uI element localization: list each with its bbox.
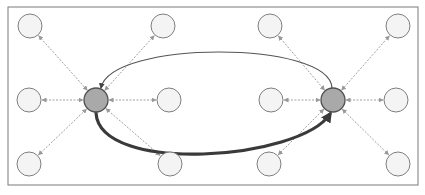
- leaf-node: [158, 152, 182, 176]
- spoke-edge: [342, 109, 388, 155]
- spoke-edge: [38, 109, 86, 155]
- thick-curve-left-to-right: [96, 113, 330, 154]
- hub-left: [84, 88, 108, 112]
- spoke-edge: [105, 36, 155, 91]
- diagram-canvas: [0, 0, 425, 195]
- spoke-edge: [342, 36, 390, 90]
- leaf-node: [386, 14, 410, 38]
- leaf-node: [259, 88, 283, 112]
- spoke-edge: [39, 36, 88, 91]
- leaf-nodes: [17, 14, 410, 176]
- leaf-node: [17, 88, 41, 112]
- leaf-node: [258, 14, 282, 38]
- spoke-edge: [278, 109, 324, 155]
- curve-edges: [96, 52, 332, 154]
- spoke-edge: [106, 109, 160, 156]
- leaf-node: [18, 14, 42, 38]
- hub-right: [321, 88, 345, 112]
- leaf-node: [384, 88, 408, 112]
- leaf-node: [386, 152, 410, 176]
- diagram-frame: [8, 7, 418, 185]
- leaf-node: [257, 152, 281, 176]
- leaf-node: [151, 14, 175, 38]
- leaf-node: [17, 152, 41, 176]
- leaf-node: [157, 88, 181, 112]
